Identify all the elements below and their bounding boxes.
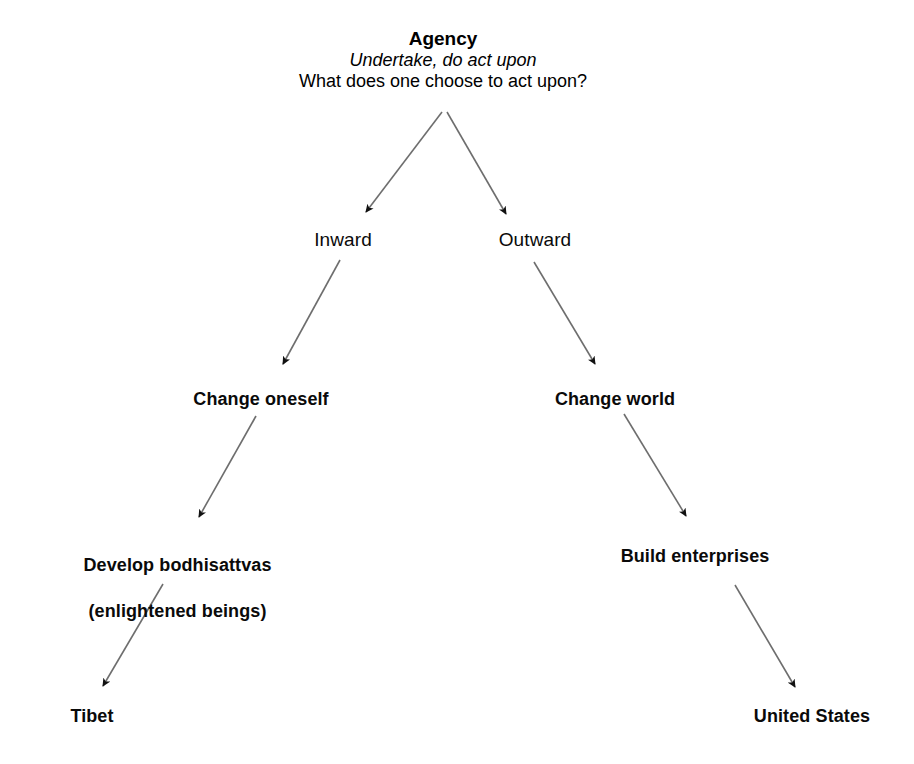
node-tibet: Tibet xyxy=(42,705,142,728)
node-agency: Agency Undertake, do act upon What does … xyxy=(243,28,643,92)
node-agency-question: What does one choose to act upon? xyxy=(243,71,643,92)
node-build-enterprises: Build enterprises xyxy=(600,545,790,568)
node-inward: Inward xyxy=(263,228,423,252)
edge-change-oneself-to-develop-bodhisattvas xyxy=(199,416,256,517)
edge-outward-to-change-world xyxy=(534,262,595,364)
node-agency-title: Agency xyxy=(243,28,643,50)
node-outward: Outward xyxy=(455,228,615,252)
arrow-layer xyxy=(0,0,914,764)
node-develop-bodhisattvas: Develop bodhisattvas (enlightened beings… xyxy=(65,531,290,646)
node-change-oneself: Change oneself xyxy=(166,388,356,411)
node-develop-bodhisattvas-line2: (enlightened beings) xyxy=(65,600,290,623)
edge-build-enterprises-to-united-states xyxy=(735,585,795,687)
edge-agency-to-inward xyxy=(366,112,442,212)
node-change-world: Change world xyxy=(525,388,705,411)
edge-inward-to-change-oneself xyxy=(283,260,340,364)
node-united-states: United States xyxy=(737,705,887,728)
node-develop-bodhisattvas-line1: Develop bodhisattvas xyxy=(65,554,290,577)
edge-agency-to-outward xyxy=(447,112,506,214)
agency-diagram: Agency Undertake, do act upon What does … xyxy=(0,0,914,764)
node-agency-subtitle: Undertake, do act upon xyxy=(243,50,643,71)
edge-change-world-to-build-enterprises xyxy=(624,414,686,516)
